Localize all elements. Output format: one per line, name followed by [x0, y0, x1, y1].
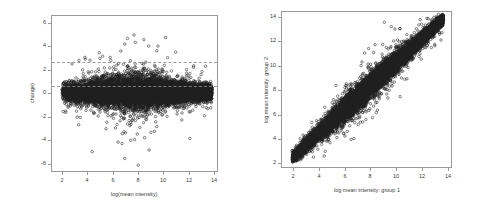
ma-xticklabel-1: 4	[85, 178, 88, 184]
gp-xtick-3	[370, 168, 371, 171]
group-plot-points	[282, 12, 451, 167]
gp-xticklabel-3: 8	[368, 174, 371, 180]
gp-yticklabel-2: 10	[270, 63, 276, 69]
ma-yticklabel-3: 0	[43, 90, 46, 96]
ma-xticklabel-0: 2	[60, 178, 63, 184]
gp-xtick-2	[345, 168, 346, 171]
ma-yticklabel-2: 2	[43, 67, 46, 73]
ma-refline-upper	[52, 62, 217, 63]
ma-plot-points	[52, 16, 217, 171]
ma-xtick-3	[138, 172, 139, 175]
gp-xticklabel-1: 4	[317, 174, 320, 180]
gp-xtick-6	[448, 168, 449, 171]
gp-xtick-4	[396, 168, 397, 171]
ma-ytick-2	[48, 70, 51, 71]
gp-ytick-1	[278, 41, 281, 42]
gp-ytick-4	[278, 115, 281, 116]
ma-xticklabel-6: 14	[211, 178, 217, 184]
ma-xtick-4	[163, 172, 164, 175]
gp-yticklabel-0: 14	[270, 14, 276, 20]
panel-group-comparison: 2 4 6 8 10 12 14 14 12 10 8 6 4 2 log me…	[242, 0, 483, 208]
ma-xaxis-title: log(mean intensity)	[111, 192, 157, 198]
gp-yticklabel-6: 2	[273, 160, 276, 166]
gp-ytick-3	[278, 90, 281, 91]
ma-xticklabel-2: 6	[111, 178, 114, 184]
ma-yaxis-title: change)	[30, 83, 36, 103]
ma-refline-lower	[52, 86, 217, 87]
gp-ytick-6	[278, 163, 281, 164]
gp-yticklabel-5: 4	[273, 136, 276, 142]
ma-xticklabel-4: 10	[160, 178, 166, 184]
ma-xtick-5	[189, 172, 190, 175]
ma-xtick-0	[62, 172, 63, 175]
ma-ytick-0	[48, 23, 51, 24]
ma-yticklabel-4: -2	[41, 114, 46, 120]
ma-xticklabel-3: 8	[136, 178, 139, 184]
gp-yaxis-title: log mean intensity: group 2	[264, 57, 270, 123]
ma-ytick-6	[48, 164, 51, 165]
ma-xtick-1	[87, 172, 88, 175]
gp-xaxis-title: log mean intensity: group 1	[334, 188, 400, 194]
gp-yticklabel-3: 8	[273, 87, 276, 93]
gp-xtick-0	[293, 168, 294, 171]
ma-yticklabel-0: 6	[43, 20, 46, 26]
gp-ytick-2	[278, 66, 281, 67]
panel-ma-plot: 2 4 6 8 10 12 14 6 4 2 0 -2 -4 -6 log(me…	[0, 0, 242, 208]
ma-ytick-4	[48, 117, 51, 118]
figure-canvas: 2 4 6 8 10 12 14 6 4 2 0 -2 -4 -6 log(me…	[0, 0, 483, 208]
ma-yticklabel-1: 4	[43, 43, 46, 49]
gp-yticklabel-4: 6	[273, 112, 276, 118]
gp-xticklabel-0: 2	[291, 174, 294, 180]
ma-ytick-5	[48, 140, 51, 141]
ma-xtick-6	[214, 172, 215, 175]
gp-ytick-5	[278, 139, 281, 140]
gp-ytick-0	[278, 17, 281, 18]
ma-plot-frame	[51, 15, 218, 172]
gp-xticklabel-2: 6	[343, 174, 346, 180]
ma-yticklabel-5: -4	[41, 137, 46, 143]
ma-yticklabel-6: -6	[41, 161, 46, 167]
gp-xticklabel-5: 12	[419, 174, 425, 180]
group-plot-frame	[281, 11, 452, 168]
gp-yticklabel-1: 12	[270, 38, 276, 44]
gp-xtick-5	[422, 168, 423, 171]
ma-xticklabel-5: 12	[186, 178, 192, 184]
gp-xticklabel-6: 14	[445, 174, 451, 180]
ma-xtick-2	[113, 172, 114, 175]
ma-ytick-3	[48, 93, 51, 94]
gp-xticklabel-4: 10	[393, 174, 399, 180]
gp-xtick-1	[319, 168, 320, 171]
ma-ytick-1	[48, 46, 51, 47]
